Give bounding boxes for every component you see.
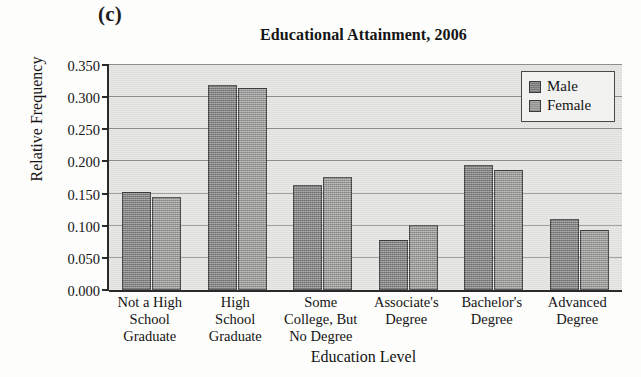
category-label-line: Bachelor's: [449, 294, 535, 311]
bar-female-2: [323, 177, 352, 290]
bar-female-5: [580, 230, 609, 290]
y-axis-tick-label: 0.300: [67, 90, 100, 107]
y-axis-tick-label: 0.350: [67, 58, 100, 75]
y-axis-tick: [102, 193, 109, 195]
category-label-line: Degree: [535, 311, 621, 328]
y-axis-tick: [102, 225, 109, 227]
category-label-line: No Degree: [278, 328, 364, 345]
y-axis-tick-label: 0.150: [67, 186, 100, 203]
x-axis-category-label: Associate'sDegree: [364, 294, 450, 328]
panel-letter: (c): [98, 2, 122, 27]
category-label-line: Degree: [364, 311, 450, 328]
chart-title: Educational Attainment, 2006: [107, 26, 620, 44]
category-label-line: High: [193, 294, 279, 311]
y-axis-tick: [102, 128, 109, 130]
bar-female-1: [238, 88, 267, 291]
legend: MaleFemale: [521, 71, 615, 122]
y-axis-tick-label: 0.050: [67, 250, 100, 267]
category-label-line: Degree: [449, 311, 535, 328]
legend-swatch-icon: [529, 100, 541, 112]
y-axis-tick: [102, 64, 109, 66]
gridline: [109, 128, 622, 129]
y-axis-tick-label: 0.250: [67, 122, 100, 139]
gridline: [109, 193, 622, 194]
y-axis-tick: [102, 160, 109, 162]
category-label-line: Graduate: [193, 328, 279, 345]
y-axis-tick: [102, 96, 109, 98]
bar-male-4: [464, 165, 493, 290]
category-label-line: Associate's: [364, 294, 450, 311]
category-label-line: Advanced: [535, 294, 621, 311]
y-axis-tick-label: 0.200: [67, 154, 100, 171]
gridline: [109, 160, 622, 161]
y-axis-tick-label: 0.000: [67, 283, 100, 300]
x-axis-category-label: HighSchoolGraduate: [193, 294, 279, 345]
category-label-line: School: [107, 311, 193, 328]
legend-label: Female: [547, 97, 591, 114]
category-label-line: Some: [278, 294, 364, 311]
bar-male-3: [379, 240, 408, 290]
gridline: [109, 257, 622, 258]
bar-female-4: [494, 170, 523, 290]
gridline: [109, 225, 622, 226]
bar-male-2: [293, 185, 322, 290]
category-label-line: College, But: [278, 311, 364, 328]
x-axis-category-label: AdvancedDegree: [535, 294, 621, 328]
y-axis-tick: [102, 257, 109, 259]
legend-item-female[interactable]: Female: [529, 96, 607, 115]
bar-female-3: [409, 225, 438, 290]
x-axis-line: [109, 290, 622, 292]
y-axis-tick: [102, 289, 109, 291]
x-axis-category-label: Bachelor'sDegree: [449, 294, 535, 328]
category-label-line: Graduate: [107, 328, 193, 345]
chart-figure: (c) Educational Attainment, 2006 Relativ…: [0, 0, 641, 377]
category-label-line: Not a High: [107, 294, 193, 311]
y-axis-title: Relative Frequency: [28, 19, 46, 219]
x-axis-category-label: Not a HighSchoolGraduate: [107, 294, 193, 345]
y-axis-tick-label: 0.100: [67, 218, 100, 235]
x-axis-category-label: SomeCollege, ButNo Degree: [278, 294, 364, 345]
bar-female-0: [152, 197, 181, 290]
bar-male-1: [208, 85, 237, 290]
bar-male-0: [122, 192, 151, 290]
category-label-line: School: [193, 311, 279, 328]
legend-label: Male: [547, 78, 578, 95]
x-axis-title: Education Level: [107, 348, 620, 366]
legend-item-male[interactable]: Male: [529, 77, 607, 96]
gridline: [109, 64, 622, 65]
bar-male-5: [550, 219, 579, 290]
legend-swatch-icon: [529, 81, 541, 93]
